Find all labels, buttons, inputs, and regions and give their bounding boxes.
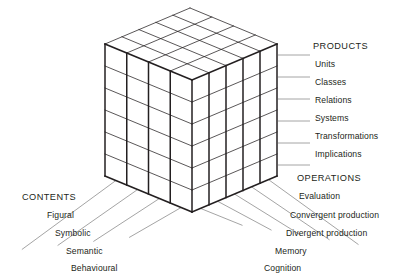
products-item-transformations: Transformations bbox=[315, 131, 378, 141]
products-item-units: Units bbox=[315, 59, 335, 69]
operations-leader-1 bbox=[218, 201, 272, 230]
products-header: PRODUCTS bbox=[313, 41, 368, 51]
contents-item-behavioural: Behavioural bbox=[71, 263, 118, 273]
contents-header: CONTENTS bbox=[22, 192, 76, 202]
operations-item-evaluation: Evaluation bbox=[299, 191, 340, 201]
products-item-relations: Relations bbox=[315, 95, 352, 105]
diagram-canvas: PRODUCTS Units Classes Relations Systems… bbox=[0, 0, 400, 278]
operations-item-cognition: Cognition bbox=[264, 263, 301, 273]
products-item-implications: Implications bbox=[315, 149, 362, 159]
cube-body bbox=[105, 8, 277, 212]
operations-item-memory: Memory bbox=[275, 246, 307, 256]
products-item-systems: Systems bbox=[315, 113, 349, 123]
contents-item-figural: Figural bbox=[47, 210, 74, 220]
contents-leader-0 bbox=[129, 208, 181, 238]
products-item-classes: Classes bbox=[315, 77, 346, 87]
operations-item-divergent-production: Divergent production bbox=[286, 228, 367, 238]
operations-header: OPERATIONS bbox=[297, 173, 361, 183]
operations-item-convergent-production: Convergent production bbox=[290, 210, 379, 220]
contents-leader-1 bbox=[93, 199, 159, 242]
contents-item-semantic: Semantic bbox=[66, 246, 103, 256]
contents-item-symbolic: Symbolic bbox=[55, 228, 91, 238]
